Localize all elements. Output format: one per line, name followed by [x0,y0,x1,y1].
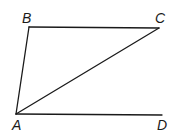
label-point-a: A [11,117,21,133]
geometry-diagram: A B C D [0,0,174,137]
label-point-d: D [157,117,167,133]
label-point-c: C [155,10,166,26]
segment-ca [16,28,159,114]
segment-bc [29,27,159,28]
segment-ad [16,114,162,115]
segment-ab [16,27,29,114]
label-point-b: B [22,10,31,26]
